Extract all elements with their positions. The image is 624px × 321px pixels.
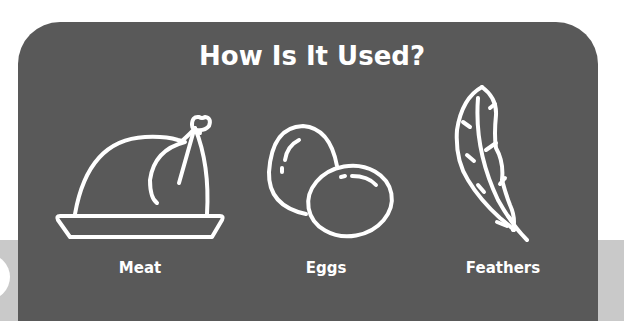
item-label-meat: Meat — [80, 258, 200, 278]
item-label-feathers: Feathers — [443, 258, 563, 278]
item-label-eggs: Eggs — [266, 258, 386, 278]
infographic-stage: How Is It Used? — [0, 0, 624, 321]
